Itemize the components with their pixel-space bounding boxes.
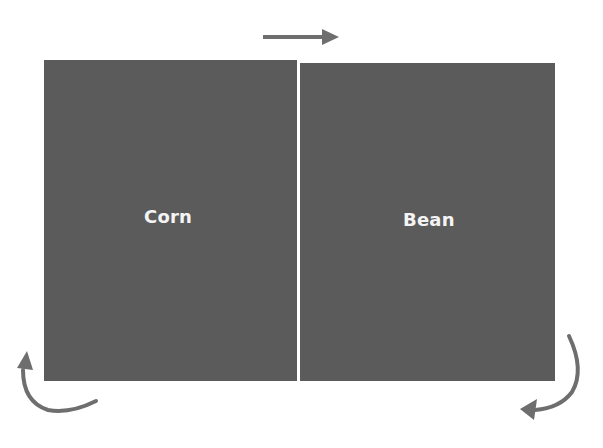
arrow-right-icon xyxy=(263,29,339,45)
corn-field: Corn xyxy=(44,60,297,381)
bean-field: Bean xyxy=(300,63,555,381)
bean-label: Bean xyxy=(403,209,455,230)
corn-label: Corn xyxy=(144,206,192,227)
